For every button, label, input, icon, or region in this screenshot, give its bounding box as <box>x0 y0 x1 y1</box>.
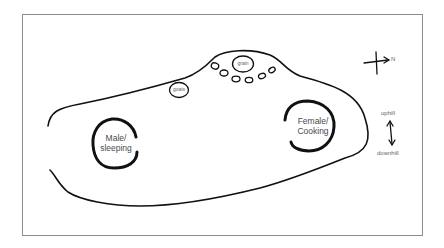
uphill-label: uphill <box>381 110 395 117</box>
site-sketch <box>0 0 444 248</box>
female-cooking-label: Female/ Cooking <box>293 117 333 137</box>
male-sleeping-label: Male/ sleeping <box>96 134 136 154</box>
north-arrow-icon <box>364 52 389 74</box>
slope-arrow-icon <box>387 121 395 145</box>
goats-label: goats <box>170 87 188 93</box>
downhill-label: downhill <box>377 150 399 157</box>
male-label-line2: sleeping <box>96 144 136 154</box>
north-label: N <box>391 56 395 63</box>
female-label-line2: Cooking <box>293 127 333 137</box>
grain-label: grain <box>234 61 252 67</box>
